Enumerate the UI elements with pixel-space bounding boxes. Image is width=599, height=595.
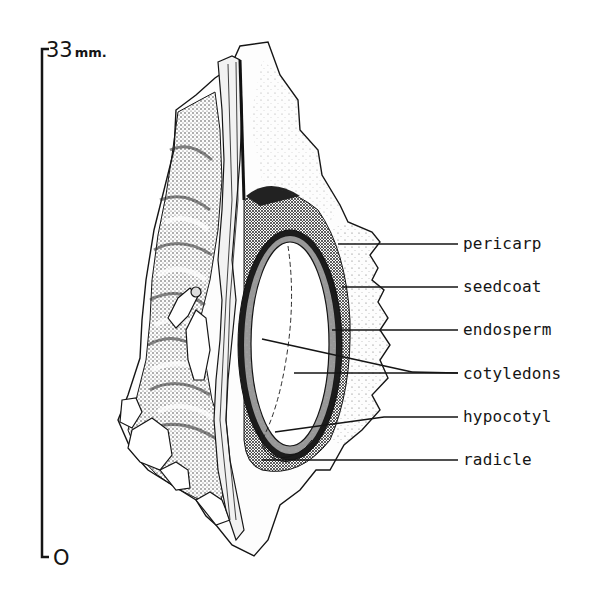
scale-max-value: 33	[46, 38, 73, 62]
label-cotyledons: cotyledons	[463, 366, 561, 382]
label-radicle: radicle	[463, 452, 532, 468]
label-hypocotyl: hypocotyl	[463, 409, 552, 425]
label-endosperm: endosperm	[463, 322, 552, 338]
label-seedcoat: seedcoat	[463, 279, 542, 295]
seed-illustration	[0, 0, 599, 595]
scale-unit: mm.	[75, 45, 107, 60]
scale-bar	[42, 49, 49, 557]
label-pericarp: pericarp	[463, 236, 542, 252]
scale-min-label: O	[53, 547, 70, 569]
cotyledons	[251, 242, 329, 446]
leader-cotyledons-join	[412, 372, 458, 373]
scale-max-label: 33mm.	[46, 39, 107, 64]
seed-diagram: 33mm. O pericarp seedcoat endosperm coty…	[0, 0, 599, 595]
